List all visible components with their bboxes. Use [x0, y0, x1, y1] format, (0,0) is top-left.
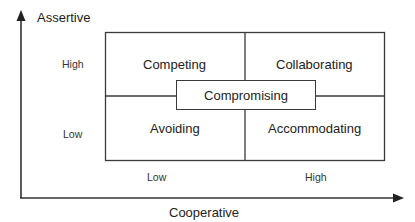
- center-compromising-label: Compromising: [204, 88, 288, 103]
- quadrant-avoiding: Avoiding: [150, 121, 200, 136]
- axes-and-grid: [0, 0, 415, 222]
- quadrant-collaborating: Collaborating: [276, 57, 353, 72]
- center-compromising-box: Compromising: [176, 80, 316, 110]
- y-axis-title: Assertive: [37, 10, 90, 25]
- quadrant-accommodating: Accommodating: [268, 121, 361, 136]
- x-axis-arrow-icon: [393, 194, 404, 203]
- y-axis-arrow-icon: [17, 10, 26, 21]
- y-tick-high: High: [62, 58, 84, 70]
- x-tick-low: Low: [147, 171, 166, 183]
- x-tick-high: High: [305, 171, 327, 183]
- quadrant-competing: Competing: [143, 57, 206, 72]
- y-tick-low: Low: [63, 128, 82, 140]
- x-axis-title: Cooperative: [169, 205, 239, 220]
